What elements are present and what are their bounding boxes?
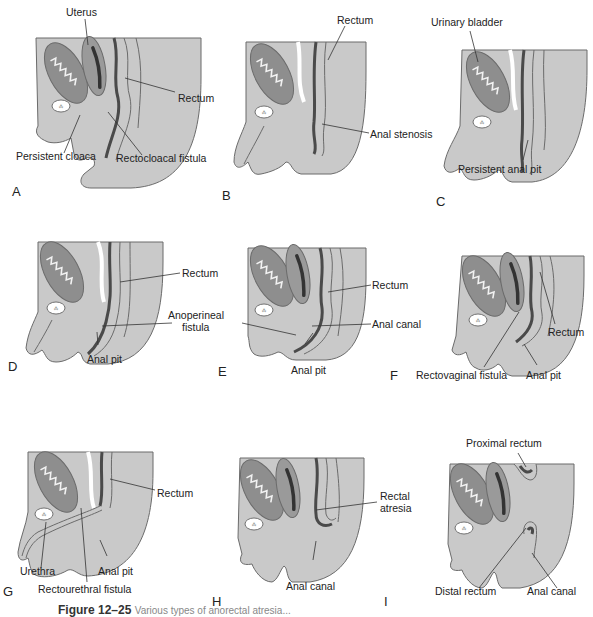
label-rectal-atresia-2: atresia: [380, 502, 412, 514]
panel-h-illustration: [231, 453, 364, 582]
panel-e-illustration: [241, 239, 366, 360]
label-rectovaginal-fistula: Rectovaginal fistula: [416, 369, 507, 381]
label-rectum-b: Rectum: [337, 14, 373, 26]
panel-letter-e: E: [218, 364, 227, 379]
panel-c-illustration: [444, 45, 587, 182]
label-rectum-d: Rectum: [182, 267, 218, 279]
panel-i-illustration: [441, 457, 574, 588]
label-rectum-a: Rectum: [178, 92, 214, 104]
panel-letter-f: F: [390, 368, 398, 383]
label-anoperineal-1: Anoperineal: [168, 309, 224, 321]
panel-g-illustration: [18, 445, 153, 577]
label-distal-rectum: Distal rectum: [435, 585, 496, 597]
panel-a-illustration: [35, 35, 201, 188]
label-anal-pit-f: Anal pit: [526, 369, 561, 381]
panel-letter-i: I: [384, 594, 388, 609]
label-anal-canal-h: Anal canal: [286, 580, 335, 592]
label-rectum-f: Rectum: [548, 326, 584, 338]
label-rectocloacal-fistula: Rectocloacal fistula: [116, 152, 206, 164]
label-persistent-cloaca: Persistent cloaca: [16, 150, 96, 162]
label-persistent-anal-pit: Persistent anal pit: [458, 163, 541, 175]
diagram-artwork: ⁂: [0, 0, 593, 617]
label-urethra: Urethra: [20, 565, 55, 577]
label-anal-pit-g: Anal pit: [98, 565, 133, 577]
panel-letter-a: A: [12, 184, 21, 199]
label-uterus: Uterus: [66, 6, 97, 18]
label-proximal-rectum: Proximal rectum: [466, 437, 542, 449]
figure-12-25: ⁂: [0, 0, 593, 617]
caption-text: Various types of anorectal atresia...: [135, 605, 291, 616]
panel-f-illustration: [452, 249, 584, 376]
label-anal-stenosis: Anal stenosis: [370, 128, 432, 140]
panel-d-illustration: [26, 235, 163, 364]
label-anoperineal-2: fistula: [182, 321, 209, 333]
figure-caption: Figure 12–25 Various types of anorectal …: [58, 603, 291, 617]
label-rectum-e: Rectum: [372, 279, 408, 291]
label-anal-pit-e: Anal pit: [291, 364, 326, 376]
label-rectum-g: Rectum: [157, 487, 193, 499]
panel-letter-d: D: [8, 359, 17, 374]
caption-label: Figure 12–25: [58, 603, 131, 617]
panel-letter-g: G: [3, 584, 13, 599]
label-urinary-bladder: Urinary bladder: [431, 16, 503, 28]
label-rectal-atresia-1: Rectal: [380, 490, 410, 502]
label-rectourethral-fistula: Rectourethral fistula: [38, 583, 131, 595]
label-anal-canal-e: Anal canal: [372, 318, 421, 330]
panel-letter-b: B: [222, 188, 231, 203]
panel-letter-c: C: [436, 194, 445, 209]
panel-b-illustration: [234, 37, 366, 174]
label-anal-canal-i: Anal canal: [527, 585, 576, 597]
label-anal-pit-d: Anal pit: [87, 353, 122, 365]
